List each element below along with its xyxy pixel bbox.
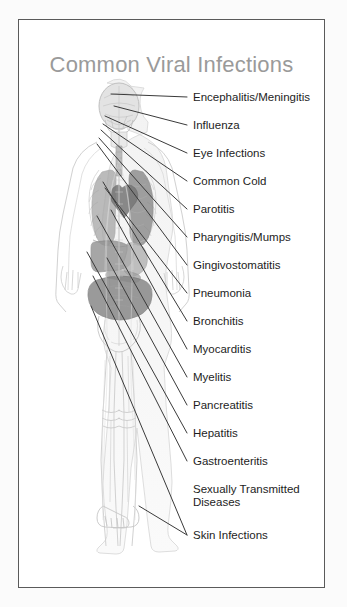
label-pneumonia: Pneumonia xyxy=(193,287,251,300)
label-myocarditis: Myocarditis xyxy=(193,343,251,356)
label-hepatitis: Hepatitis xyxy=(193,427,238,440)
label-pancreatitis: Pancreatitis xyxy=(193,399,253,412)
label-skin-infections: Skin Infections xyxy=(193,529,268,542)
diagram-panel: Common Viral Infections xyxy=(18,19,325,588)
label-parotitis: Parotitis xyxy=(193,203,235,216)
label-list: Encephalitis/MeningitisInfluenzaEye Infe… xyxy=(19,20,325,588)
label-myelitis: Myelitis xyxy=(193,371,231,384)
label-eye-infections: Eye Infections xyxy=(193,147,265,160)
label-gastroenteritis: Gastroenteritis xyxy=(193,455,268,468)
label-gingivostomatitis: Gingivostomatitis xyxy=(193,259,281,272)
diagram-root: Common Viral Infections xyxy=(0,0,347,607)
label-bronchitis: Bronchitis xyxy=(193,315,244,328)
label-encephalitis-meningitis: Encephalitis/Meningitis xyxy=(193,91,310,104)
label-common-cold: Common Cold xyxy=(193,175,267,188)
label-pharyngitis-mumps: Pharyngitis/Mumps xyxy=(193,231,291,244)
label-sexually-transmitted-diseases: Sexually Transmitted Diseases xyxy=(193,483,300,509)
label-influenza: Influenza xyxy=(193,119,240,132)
